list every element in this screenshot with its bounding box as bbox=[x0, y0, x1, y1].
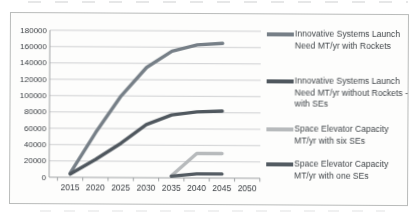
chart-legend: Innovative Systems Launch Need MT/yr wit… bbox=[267, 14, 407, 15]
legend-label: Innovative Systems Launch Need MT/yr wit… bbox=[295, 28, 409, 52]
legend-item: Innovative Systems Launch Need MT/yr wit… bbox=[267, 28, 409, 52]
legend-marker-line bbox=[267, 33, 294, 37]
svg-text:120000: 120000 bbox=[20, 75, 47, 84]
legend-marker-line bbox=[267, 80, 294, 84]
legend-item: Space Elevator Capacity MT/yr with six S… bbox=[266, 123, 408, 147]
scan-artifact-bottom bbox=[40, 210, 385, 212]
svg-text:2040: 2040 bbox=[187, 183, 206, 193]
svg-text:100000: 100000 bbox=[20, 91, 47, 100]
svg-text:140000: 140000 bbox=[20, 59, 47, 68]
legend-item: Space Elevator Capacity MT/yr with one S… bbox=[266, 158, 408, 182]
line-chart-plot: 1800001600001400001200001000008000060000… bbox=[10, 13, 277, 204]
chart-frame: 1800001600001400001200001000008000060000… bbox=[9, 12, 409, 206]
scan-artifact-top bbox=[28, 1, 408, 3]
svg-text:2020: 2020 bbox=[86, 182, 105, 192]
svg-text:2015: 2015 bbox=[61, 182, 80, 192]
legend-label: Space Elevator Capacity MT/yr with one S… bbox=[294, 158, 408, 182]
svg-text:180000: 180000 bbox=[20, 26, 47, 35]
svg-text:2035: 2035 bbox=[162, 183, 181, 193]
svg-text:40000: 40000 bbox=[24, 140, 47, 149]
legend-marker-line bbox=[266, 163, 293, 167]
legend-label: Innovative Systems Launch Need MT/yr wit… bbox=[294, 75, 408, 111]
svg-text:2025: 2025 bbox=[111, 183, 130, 193]
legend-label: Space Elevator Capacity MT/yr with six S… bbox=[294, 123, 408, 147]
svg-text:20000: 20000 bbox=[24, 157, 47, 166]
svg-text:60000: 60000 bbox=[24, 124, 47, 133]
svg-text:2045: 2045 bbox=[212, 183, 231, 193]
legend-marker-line bbox=[266, 128, 293, 132]
svg-text:2030: 2030 bbox=[136, 183, 155, 193]
svg-text:2050: 2050 bbox=[238, 183, 257, 193]
legend-item: Innovative Systems Launch Need MT/yr wit… bbox=[266, 75, 408, 111]
svg-text:0: 0 bbox=[42, 173, 47, 182]
svg-text:80000: 80000 bbox=[24, 108, 47, 117]
svg-text:160000: 160000 bbox=[20, 42, 47, 51]
